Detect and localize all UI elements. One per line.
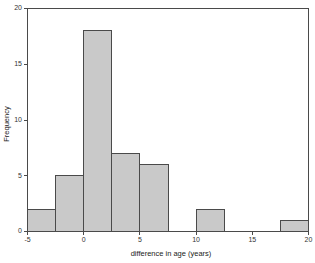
x-tick-label: 20 [305, 236, 313, 243]
histogram-bar [196, 209, 224, 231]
histogram-svg: -505101520 05101520 difference in age (y… [0, 0, 315, 263]
y-tick-label: 0 [18, 227, 22, 234]
x-tick-label: 5 [138, 236, 142, 243]
y-tick-label: 20 [14, 4, 22, 11]
histogram-bar [28, 209, 56, 231]
x-tick-label: 10 [192, 236, 200, 243]
y-tick-label: 15 [14, 60, 22, 67]
y-axis-label: Frequency [2, 106, 11, 142]
histogram-bar [140, 165, 168, 232]
y-tick-label: 5 [18, 172, 22, 179]
histogram-bar [280, 220, 308, 231]
histogram-chart: -505101520 05101520 difference in age (y… [0, 0, 315, 263]
histogram-bar [56, 176, 84, 232]
y-tick-label: 10 [14, 116, 22, 123]
x-tick-label: 15 [248, 236, 256, 243]
x-tick-label: -5 [24, 236, 30, 243]
histogram-bar [112, 153, 140, 231]
x-axis-label: difference in age (years) [131, 249, 212, 258]
histogram-bar [84, 31, 112, 232]
x-tick-label: 0 [82, 236, 86, 243]
